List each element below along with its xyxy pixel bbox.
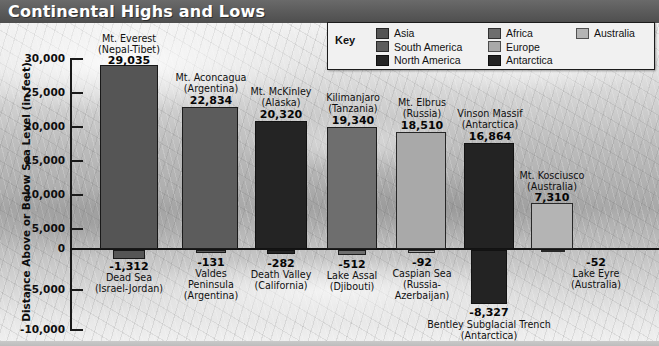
chart-page: Continental Highs and Lows Key Asia Sout… bbox=[0, 0, 659, 346]
page-title: Continental Highs and Lows bbox=[8, 2, 265, 21]
label-lake-eyre-line1: Lake Eyre bbox=[553, 268, 639, 279]
legend-column-1: Asia South America North America bbox=[376, 27, 488, 67]
y-tick-15000 bbox=[70, 160, 83, 162]
legend-label-south-america: South America bbox=[394, 41, 462, 53]
bar-high-antarctica bbox=[464, 143, 514, 249]
y-ticklabel-0: 0 bbox=[3, 242, 65, 254]
y-tick-30000 bbox=[70, 58, 83, 60]
legend-item-antarctica: Antarctica bbox=[488, 54, 576, 67]
y-ticklabel-30000: 30,000 bbox=[3, 52, 65, 64]
legend-swatch-south-america-icon bbox=[376, 41, 389, 52]
value-kosciusco: 7,310 bbox=[511, 191, 593, 204]
y-tick-25000 bbox=[70, 92, 83, 94]
y-ticklabel-25000: 25,000 bbox=[3, 86, 65, 98]
y-ticklabel-10000: 10,000 bbox=[3, 188, 65, 200]
bar-low-africa bbox=[338, 250, 366, 255]
bar-low-australia bbox=[541, 250, 565, 252]
bar-high-australia bbox=[531, 203, 573, 249]
label-caspian-line1: Caspian Sea bbox=[379, 268, 465, 279]
y-ticklabel-20000: 20,000 bbox=[3, 120, 65, 132]
bar-high-south-america bbox=[182, 107, 238, 249]
legend-item-asia: Asia bbox=[376, 27, 488, 40]
label-bentley-line2: (Antarctica) bbox=[416, 330, 562, 341]
legend-item-europe: Europe bbox=[488, 41, 576, 54]
label-valdes-line3: (Argentina) bbox=[166, 290, 256, 301]
legend-item-south-america: South America bbox=[376, 41, 488, 54]
bar-high-asia bbox=[100, 65, 158, 249]
label-everest-line1: Mt. Everest bbox=[85, 33, 173, 44]
legend-label-antarctica: Antarctica bbox=[506, 54, 553, 66]
y-tick-5000 bbox=[70, 228, 83, 230]
legend-box: Key Asia South America North America bbox=[327, 22, 655, 70]
y-ticklabel-15000: 15,000 bbox=[3, 154, 65, 166]
label-dead-sea-line1: Dead Sea bbox=[80, 272, 178, 283]
legend-swatch-australia-icon bbox=[576, 28, 589, 39]
label-caspian-line3: Azerbaijan) bbox=[377, 290, 467, 301]
legend-swatch-north-america-icon bbox=[376, 55, 389, 66]
legend-item-north-america: North America bbox=[376, 54, 488, 67]
bar-low-south-america bbox=[196, 250, 226, 253]
label-lake-eyre-line2: (Australia) bbox=[553, 279, 639, 290]
legend-item-australia: Australia bbox=[576, 27, 648, 40]
y-ticklabel-neg10000: -10,000 bbox=[3, 323, 65, 335]
y-tick-neg10000 bbox=[70, 329, 83, 331]
y-tick-20000 bbox=[70, 126, 83, 128]
label-caspian-line2: (Russia- bbox=[379, 279, 465, 290]
y-tick-10000 bbox=[70, 194, 83, 196]
y-ticklabel-5000: 5,000 bbox=[3, 222, 65, 234]
y-ticklabel-neg5000: -5,000 bbox=[3, 283, 65, 295]
value-bentley: -8,327 bbox=[444, 306, 534, 319]
legend-label-asia: Asia bbox=[394, 27, 414, 39]
label-bentley-line1: Bentley Subglacial Trench bbox=[416, 319, 562, 330]
value-vinson: 16,864 bbox=[448, 130, 532, 143]
label-kosciusco-line1: Mt. Kosciusco bbox=[511, 170, 593, 181]
bar-high-africa bbox=[327, 127, 377, 249]
legend-swatch-europe-icon bbox=[488, 41, 501, 52]
legend-label-australia: Australia bbox=[594, 27, 635, 39]
bar-high-europe bbox=[396, 132, 446, 249]
legend-item-africa: Africa bbox=[488, 27, 576, 40]
chart-title-bar: Continental Highs and Lows bbox=[0, 0, 659, 23]
legend-column-2: Africa Europe Antarctica bbox=[488, 27, 576, 67]
bottom-strip bbox=[0, 341, 659, 346]
bar-low-north-america bbox=[267, 250, 295, 254]
legend-swatch-asia-icon bbox=[376, 28, 389, 39]
bar-low-europe bbox=[408, 250, 435, 253]
legend-label-africa: Africa bbox=[506, 27, 533, 39]
legend-label-north-america: North America bbox=[394, 54, 461, 66]
legend-swatch-antarctica-icon bbox=[488, 55, 501, 66]
bar-low-antarctica bbox=[471, 250, 507, 304]
label-aconcagua-line1: Mt. Aconcagua bbox=[165, 72, 257, 83]
bar-high-north-america bbox=[255, 121, 307, 249]
legend-column-3: Australia bbox=[576, 27, 648, 67]
legend-heading: Key bbox=[335, 34, 355, 46]
legend-swatch-africa-icon bbox=[488, 28, 501, 39]
label-vinson-line1: Vinson Massif bbox=[448, 108, 532, 119]
legend-label-europe: Europe bbox=[506, 41, 540, 53]
label-elbrus-line1: Mt. Elbrus bbox=[382, 97, 462, 108]
bar-low-asia bbox=[113, 250, 145, 259]
value-everest: 29,035 bbox=[85, 54, 173, 67]
label-vinson-line2: (Antarctica) bbox=[448, 119, 532, 130]
